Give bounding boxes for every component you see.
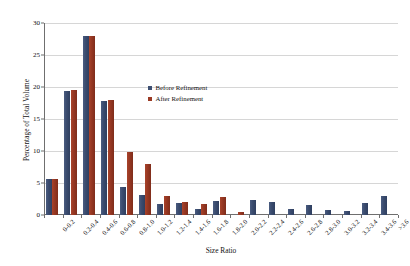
bar-group [305, 23, 324, 215]
y-axis-tick-label: 5 [37, 179, 41, 187]
bar-group [268, 23, 287, 215]
bar-group [342, 23, 361, 215]
bar [201, 204, 207, 215]
bar [195, 209, 201, 215]
bar [46, 179, 52, 215]
bars-layer [44, 23, 398, 215]
bar [213, 201, 219, 215]
y-axis-tick-label: 0 [37, 211, 41, 219]
y-axis-tick-label: 10 [33, 147, 40, 155]
legend-item[interactable]: After Refinement [148, 95, 207, 102]
bar [127, 152, 133, 215]
chart-legend: Before RefinementAfter Refinement [148, 84, 207, 106]
bar-group [323, 23, 342, 215]
bar-group [156, 23, 175, 215]
bar [176, 203, 182, 215]
x-axis-tick-label: 0.6-0.8 [119, 218, 137, 236]
x-axis-tick-label: 3.2-3.4 [361, 218, 379, 236]
x-axis-tick-label: >3.6 [396, 218, 409, 231]
x-axis-tick-label: 1.8-2.0 [230, 218, 248, 236]
bar [108, 100, 114, 215]
bar-group [44, 23, 63, 215]
bar-group [286, 23, 305, 215]
bar-group [63, 23, 82, 215]
legend-swatch-icon [148, 86, 152, 90]
x-axis-tick-label: 2.8-3.0 [324, 218, 342, 236]
x-axis-tick-mark [398, 215, 399, 218]
bar [306, 205, 312, 215]
bar [288, 209, 294, 215]
bar-group [119, 23, 138, 215]
x-axis-tick-label: 0.4-0.6 [100, 218, 118, 236]
x-axis-tick-label: 1.2-1.4 [175, 218, 193, 236]
legend-swatch-icon [148, 97, 152, 101]
x-axis-tick-label: 0.2-0.4 [81, 218, 99, 236]
bar [71, 90, 77, 215]
y-axis-tick-label: 20 [33, 83, 40, 91]
bar [344, 211, 350, 215]
bar [164, 196, 170, 215]
x-axis-tick-label: 0.8-1.0 [137, 218, 155, 236]
legend-label: Before Refinement [156, 84, 208, 91]
y-axis-tick-label: 30 [33, 19, 40, 27]
y-axis-tick-label: 15 [33, 115, 40, 123]
bar [120, 187, 126, 215]
bar-group [361, 23, 380, 215]
bar [381, 196, 387, 215]
bar [238, 212, 244, 215]
y-axis-title: Percentage of Total Volume [23, 35, 31, 205]
x-axis-tick-label: 2.6-2.8 [305, 218, 323, 236]
bar [325, 210, 331, 215]
bar-group [193, 23, 212, 215]
bar [182, 202, 188, 215]
x-axis-tick-label: 3.0-3.2 [342, 218, 360, 236]
x-axis-tick-label: 1.0-1.2 [156, 218, 174, 236]
bar-group [379, 23, 398, 215]
bar [157, 204, 163, 215]
bar-group [212, 23, 231, 215]
bar [139, 195, 145, 215]
bar [269, 202, 275, 215]
bar-group [174, 23, 193, 215]
x-axis-tick-label: 2.0-2.2 [249, 218, 267, 236]
legend-label: After Refinement [156, 95, 204, 102]
bar [89, 36, 95, 215]
bar [220, 197, 226, 215]
bar [52, 179, 58, 215]
bar [250, 200, 256, 215]
bar [145, 164, 151, 215]
bar-group [81, 23, 100, 215]
x-axis-title: Size Ratio [44, 246, 398, 255]
x-axis-tick-label: 2.4-2.6 [286, 218, 304, 236]
x-axis-tick-label: 1.6-1.8 [212, 218, 230, 236]
bar-group [249, 23, 268, 215]
bar [83, 36, 89, 215]
bar-group [230, 23, 249, 215]
x-axis-tick-label: 3.4-3.6 [380, 218, 398, 236]
x-axis-tick-label: 0-0.2 [61, 218, 76, 233]
bar-group [100, 23, 119, 215]
x-axis-tick-label: 1.4-1.6 [193, 218, 211, 236]
x-axis-tick-label: 2.2-2.4 [268, 218, 286, 236]
bar-group [137, 23, 156, 215]
bar [101, 101, 107, 215]
plot-area: 051015202530 [44, 23, 398, 215]
bar [362, 203, 368, 215]
legend-item[interactable]: Before Refinement [148, 84, 207, 91]
bar [64, 91, 70, 215]
y-axis-tick-label: 25 [33, 51, 40, 59]
